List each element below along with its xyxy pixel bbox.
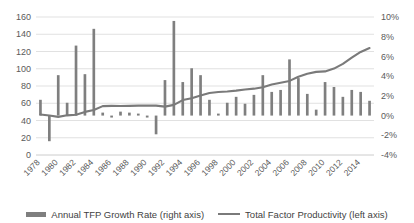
x-axis-tick: 2012 [324, 157, 345, 178]
left-axis-tick: 100 [16, 64, 31, 74]
legend-line-label: Total Factor Productivity (left axis) [245, 210, 388, 220]
x-axis-labels: 1978198019821984198619881990199219941996… [21, 157, 362, 178]
left-axis-tick: 80 [21, 81, 31, 91]
legend-line-swatch-icon [218, 213, 240, 215]
x-axis-tick: 2004 [253, 157, 274, 178]
legend-item-line: Total Factor Productivity (left axis) [218, 210, 388, 220]
left-axis-tick: 60 [21, 98, 31, 108]
legend-bar-swatch-icon [26, 212, 46, 217]
legend-item-bar: Annual TFP Growth Rate (right axis) [26, 210, 204, 220]
left-axis-tick: 0 [26, 150, 31, 160]
x-axis-tick: 2000 [217, 157, 238, 178]
gridlines [36, 17, 374, 155]
line-series [40, 48, 369, 117]
right-axis-labels: -4%-2%0%2%4%6%8%10% [381, 12, 399, 160]
x-axis-tick: 2002 [235, 157, 256, 178]
x-axis-tick: 1984 [75, 157, 96, 178]
x-axis-tick: 1982 [57, 157, 78, 178]
x-axis-tick: 2010 [306, 157, 327, 178]
x-axis-tick: 1988 [110, 157, 131, 178]
right-axis-tick: -4% [381, 150, 397, 160]
x-axis-tick: 1980 [39, 157, 60, 178]
x-axis-tick: 1994 [164, 157, 185, 178]
right-axis-tick: -2% [381, 130, 397, 140]
right-axis-tick: 8% [381, 32, 394, 42]
right-axis-tick: 4% [381, 71, 394, 81]
left-axis-labels: 020406080100120140160 [16, 12, 31, 160]
x-axis-tick: 1990 [128, 157, 149, 178]
x-axis-tick: 1978 [21, 157, 42, 178]
x-axis-tick: 2014 [342, 157, 363, 178]
left-axis-tick: 20 [21, 133, 31, 143]
right-axis-tick: 6% [381, 52, 394, 62]
x-axis-tick: 1992 [146, 157, 167, 178]
right-axis-tick: 0% [381, 111, 394, 121]
left-axis-tick: 140 [16, 29, 31, 39]
chart-legend: Annual TFP Growth Rate (right axis) Tota… [0, 210, 414, 220]
left-axis-tick: 120 [16, 47, 31, 57]
x-axis-tick: 1996 [182, 157, 203, 178]
x-axis-tick: 1998 [199, 157, 220, 178]
left-axis-tick: 40 [21, 116, 31, 126]
legend-bar-label: Annual TFP Growth Rate (right axis) [51, 210, 204, 220]
right-axis-tick: 10% [381, 12, 399, 22]
bar-series [39, 21, 371, 141]
x-axis-tick: 1986 [93, 157, 114, 178]
left-axis-tick: 160 [16, 12, 31, 22]
chart-plot-area: 020406080100120140160 -4%-2%0%2%4%6%8%10… [0, 0, 414, 223]
right-axis-tick: 2% [381, 91, 394, 101]
x-axis-tick: 2006 [270, 157, 291, 178]
tfp-combo-chart: 020406080100120140160 -4%-2%0%2%4%6%8%10… [0, 0, 414, 223]
x-axis-tick: 2008 [288, 157, 309, 178]
